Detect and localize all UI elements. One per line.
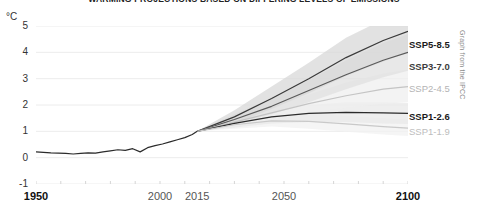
x-axis-tick-2100: 2100 — [396, 190, 420, 202]
y-axis-tick-3: 3 — [0, 74, 28, 84]
y-axis-tick-2: 2 — [0, 100, 28, 110]
chart-screenshot: WARMING PROJECTIONS BASED ON DIFFERING L… — [0, 0, 488, 218]
legend-item-ssp3-7-0: SSP3-7.0 — [409, 62, 450, 72]
y-axis-tick-5: 5 — [0, 21, 28, 31]
legend-item-ssp5-8-5: SSP5-8.5 — [409, 40, 450, 50]
x-axis-tick-2050: 2050 — [272, 190, 296, 202]
legend-item-ssp1-2-6: SSP1-2.6 — [409, 112, 450, 122]
plot-area — [36, 26, 408, 184]
attribution-label: Graph from the IPCC — [459, 30, 466, 100]
warming-projections-plot — [36, 26, 408, 184]
y-axis-tick-neg1: -1 — [0, 179, 28, 189]
chart-title: WARMING PROJECTIONS BASED ON DIFFERING L… — [0, 0, 488, 4]
legend-item-ssp2-4-5: SSP2-4.5 — [409, 84, 450, 94]
x-axis-tick-1950: 1950 — [24, 190, 48, 202]
x-axis-tick-2000: 2000 — [148, 190, 172, 202]
y-axis-tick-1: 1 — [0, 126, 28, 136]
legend-item-ssp1-1-9: SSP1-1.9 — [409, 127, 450, 137]
historical-observed-line — [36, 131, 197, 154]
y-axis-tick-0: 0 — [0, 153, 28, 163]
x-axis-tick-2015: 2015 — [185, 190, 209, 202]
y-axis-tick-4: 4 — [0, 47, 28, 57]
